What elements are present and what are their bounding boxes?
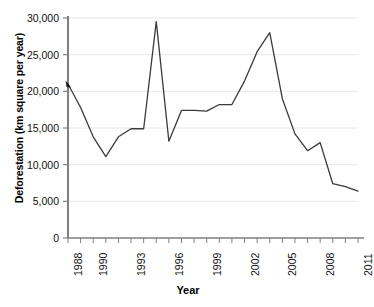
- data-line-series: [68, 22, 358, 191]
- x-axis-ticks: [68, 238, 358, 243]
- axis-lines: [68, 16, 364, 238]
- gridlines: [68, 18, 358, 201]
